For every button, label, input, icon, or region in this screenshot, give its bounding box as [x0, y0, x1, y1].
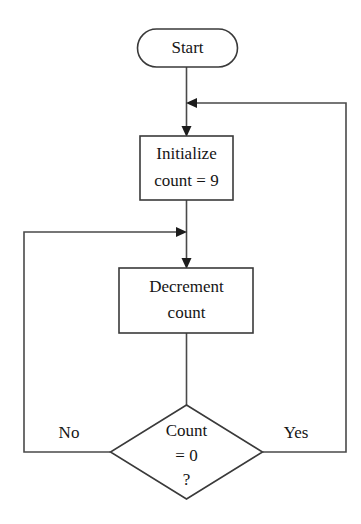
start-label: Start [171, 38, 203, 57]
flowchart-canvas: Start Initialize count = 9 Decrement cou… [0, 0, 361, 524]
edge-label-yes: Yes [284, 423, 309, 442]
node-decision[interactable]: Count = 0 ? [111, 405, 263, 499]
arrow-head-no-loop [176, 227, 187, 237]
decision-label-line-3: ? [183, 470, 191, 489]
edge-no-loop [24, 232, 181, 452]
edge-label-no: No [59, 423, 80, 442]
initialize-label-line-2: count = 9 [154, 171, 218, 190]
decision-label-line-1: Count [166, 421, 208, 440]
node-initialize[interactable]: Initialize count = 9 [140, 136, 233, 200]
arrow-head-yes-loop [186, 98, 197, 108]
connectors-layer [24, 67, 346, 452]
node-start[interactable]: Start [138, 29, 238, 67]
initialize-label-line-1: Initialize [156, 144, 216, 163]
node-decrement[interactable]: Decrement count [119, 268, 253, 333]
decision-label-line-2: = 0 [175, 446, 197, 465]
decrement-label-line-1: Decrement [149, 277, 224, 296]
decrement-label-line-2: count [168, 303, 206, 322]
flowchart-svg: Start Initialize count = 9 Decrement cou… [0, 0, 361, 524]
